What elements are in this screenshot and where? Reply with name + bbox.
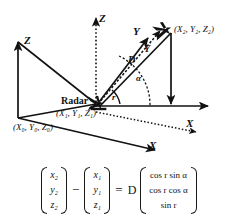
radar-label: Radar <box>61 96 88 106</box>
inner-x-axis-label: X <box>186 118 193 129</box>
matrix-cell: z₁ <box>91 198 103 213</box>
outer-x-axis-label: X <box>149 140 156 151</box>
origin-coordinate-label: (X₀, Y₀, Z₀) <box>13 123 53 132</box>
target-position-matrix: x₂ y₂ z₂ <box>41 166 67 215</box>
radar-position-matrix: x₁ y₁ z₁ <box>84 166 110 215</box>
radar-to-target-line <box>99 33 171 107</box>
matrix-cell: sin r <box>147 198 189 213</box>
inner-ground-projection-axis <box>96 112 196 132</box>
matrix-cell: x₂ <box>48 168 60 183</box>
projection-vector-label: Y <box>144 44 150 54</box>
vector-equation: x₂ y₂ z₂ − x₁ y₁ z₁ = D cos r sin α cos … <box>0 156 238 224</box>
target-coordinate-label: (X₂, Y₂, Z₂) <box>174 25 214 34</box>
matrix-cell: z₂ <box>48 198 60 213</box>
inner-y-axis <box>96 38 148 106</box>
minus-operator: − <box>70 182 81 198</box>
matrix-cell: cos r cos α <box>147 183 189 198</box>
radar-coordinate-label: (X₁, Y₁, Z₁) <box>56 109 96 118</box>
direction-cosine-matrix: cos r sin α cos r cos α sin r <box>140 166 196 215</box>
azimuth-angle-label: α <box>136 74 141 83</box>
matrix-cell: y₂ <box>48 183 60 198</box>
elevation-angle-label: r <box>112 93 116 102</box>
inner-z-axis-label: Z <box>99 13 106 24</box>
slant-range-label: D <box>128 55 135 65</box>
inner-y-axis-label: Y <box>133 26 140 37</box>
matrix-cell: y₁ <box>91 183 103 198</box>
slant-range-vector <box>98 31 160 104</box>
matrix-cell: x₁ <box>91 168 103 183</box>
slant-range-scalar: D <box>128 183 138 198</box>
equals-operator: = <box>113 182 124 198</box>
radar-geometry-figure: Z X Z Y X Y D α r Radar (X₁, Y₁, Z₁) (X₀… <box>0 0 238 224</box>
matrix-cell: cos r sin α <box>147 168 189 183</box>
outer-z-axis-label: Z <box>24 35 31 46</box>
